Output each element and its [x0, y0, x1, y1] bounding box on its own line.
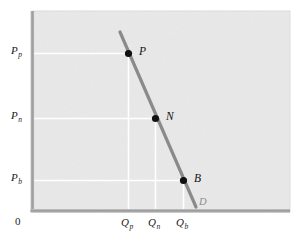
y-tick-sub-pb: b [18, 177, 22, 186]
y-tick-sub-pp: p [18, 50, 22, 59]
origin-label: 0 [15, 215, 21, 227]
y-axis-line [31, 11, 35, 212]
y-tick-label-pp: Pp [11, 44, 22, 56]
x-tick-base-qp: Q [121, 216, 129, 228]
x-tick-label-qn: Qn [148, 216, 160, 228]
x-tick-sub-qb: b [184, 222, 188, 231]
x-tick-base-qn: Q [148, 216, 156, 228]
plot-area-background [33, 11, 290, 212]
data-point-b [180, 177, 187, 184]
chart-canvas [0, 0, 306, 244]
x-tick-label-qp: Qp [121, 216, 133, 228]
y-tick-base-pp: P [11, 44, 18, 56]
data-point-n [152, 115, 159, 122]
data-point-p [125, 50, 132, 57]
x-tick-label-qb: Qb [176, 216, 188, 228]
y-tick-label-pb: Pb [11, 171, 22, 183]
y-tick-base-pn: P [11, 109, 18, 121]
x-tick-sub-qp: p [129, 222, 133, 231]
x-tick-base-qb: Q [176, 216, 184, 228]
x-axis-line [31, 209, 291, 213]
point-label-n: N [166, 110, 174, 122]
curve-label-d: D [199, 196, 207, 207]
point-label-b: B [194, 172, 201, 184]
y-tick-sub-pn: n [18, 115, 22, 124]
y-tick-label-pn: Pn [11, 109, 22, 121]
point-label-p: P [139, 45, 146, 57]
x-tick-sub-qn: n [156, 222, 160, 231]
y-tick-base-pb: P [11, 171, 18, 183]
demand-curve-figure: 0 Pp Pn Pb Qp Qn Qb P N B D [0, 0, 306, 244]
